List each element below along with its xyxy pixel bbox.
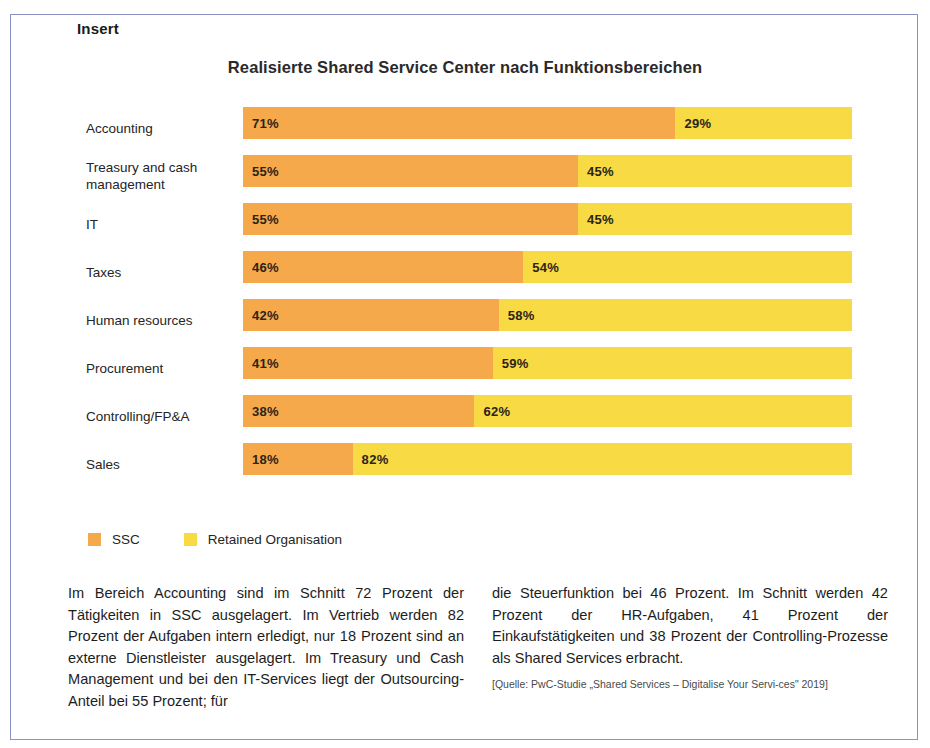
bar-value-label: 55% <box>252 164 279 179</box>
bar-segment-ssc: 18% <box>243 443 353 475</box>
category-label: Sales <box>86 456 236 473</box>
bar-value-label: 45% <box>587 164 614 179</box>
paragraph-right: die Steuerfunktion bei 46 Prozent. Im Sc… <box>492 583 888 669</box>
bar-value-label: 42% <box>252 308 279 323</box>
bar-value-label: 62% <box>483 404 510 419</box>
bar-track: 46%54% <box>243 251 852 283</box>
body-text: Im Bereich Accounting sind im Schnitt 72… <box>68 583 888 712</box>
bar-segment-ssc: 41% <box>243 347 493 379</box>
category-label: Accounting <box>86 120 236 137</box>
legend-swatch-icon <box>184 533 197 546</box>
text-column-left: Im Bereich Accounting sind im Schnitt 72… <box>68 583 464 712</box>
bar-row: Accounting71%29% <box>0 104 930 152</box>
bar-segment-retained: 59% <box>493 347 852 379</box>
bar-segment-retained: 45% <box>578 203 852 235</box>
bar-row: Taxes46%54% <box>0 248 930 296</box>
legend-item-ssc[interactable]: SSC <box>88 532 140 547</box>
category-label: IT <box>86 216 236 233</box>
bar-track: 55%45% <box>243 203 852 235</box>
text-column-right: die Steuerfunktion bei 46 Prozent. Im Sc… <box>492 583 888 712</box>
legend-label: Retained Organisation <box>208 532 342 547</box>
legend-item-retained[interactable]: Retained Organisation <box>184 532 342 547</box>
category-label: Treasury and cash management <box>86 159 236 193</box>
bar-segment-retained: 29% <box>675 107 852 139</box>
bar-value-label: 82% <box>362 452 389 467</box>
bar-segment-retained: 54% <box>523 251 852 283</box>
bar-row: Treasury and cash management55%45% <box>0 152 930 200</box>
bar-row: Sales18%82% <box>0 440 930 488</box>
bar-value-label: 55% <box>252 212 279 227</box>
bar-track: 18%82% <box>243 443 852 475</box>
bar-row: Human resources42%58% <box>0 296 930 344</box>
bar-segment-ssc: 55% <box>243 203 578 235</box>
category-label: Human resources <box>86 312 236 329</box>
bar-track: 42%58% <box>243 299 852 331</box>
bar-segment-ssc: 42% <box>243 299 499 331</box>
bar-row: Controlling/FP&A38%62% <box>0 392 930 440</box>
bar-track: 55%45% <box>243 155 852 187</box>
bar-value-label: 58% <box>508 308 535 323</box>
bar-value-label: 29% <box>684 116 711 131</box>
chart-legend: SSCRetained Organisation <box>88 532 386 547</box>
bar-segment-ssc: 46% <box>243 251 523 283</box>
bar-track: 38%62% <box>243 395 852 427</box>
bar-track: 41%59% <box>243 347 852 379</box>
bar-row: IT55%45% <box>0 200 930 248</box>
category-label: Procurement <box>86 360 236 377</box>
bar-value-label: 71% <box>252 116 279 131</box>
bar-segment-ssc: 55% <box>243 155 578 187</box>
bar-segment-retained: 58% <box>499 299 852 331</box>
insert-frame-label: Insert <box>69 20 129 38</box>
bar-value-label: 41% <box>252 356 279 371</box>
stacked-bar-chart: Accounting71%29%Treasury and cash manage… <box>0 104 930 488</box>
bar-value-label: 45% <box>587 212 614 227</box>
bar-value-label: 46% <box>252 260 279 275</box>
paragraph-left: Im Bereich Accounting sind im Schnitt 72… <box>68 583 464 712</box>
bar-value-label: 59% <box>502 356 529 371</box>
bar-segment-retained: 62% <box>474 395 852 427</box>
bar-segment-retained: 82% <box>353 443 852 475</box>
category-label: Controlling/FP&A <box>86 408 236 425</box>
bar-segment-ssc: 38% <box>243 395 474 427</box>
source-citation: [Quelle: PwC-Studie „Shared Services – D… <box>492 678 888 691</box>
bar-segment-retained: 45% <box>578 155 852 187</box>
bar-value-label: 18% <box>252 452 279 467</box>
bar-value-label: 38% <box>252 404 279 419</box>
legend-label: SSC <box>112 532 140 547</box>
bar-row: Procurement41%59% <box>0 344 930 392</box>
category-label: Taxes <box>86 264 236 281</box>
bar-track: 71%29% <box>243 107 852 139</box>
legend-swatch-icon <box>88 533 101 546</box>
bar-segment-ssc: 71% <box>243 107 675 139</box>
bar-value-label: 54% <box>532 260 559 275</box>
chart-title: Realisierte Shared Service Center nach F… <box>0 58 930 77</box>
